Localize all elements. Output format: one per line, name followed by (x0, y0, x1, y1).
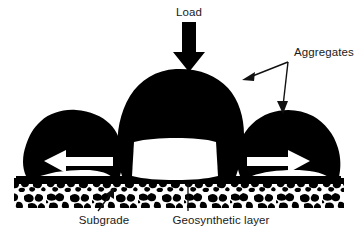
subgrade-label: Subgrade (79, 214, 130, 226)
load-label: Load (176, 6, 202, 18)
aggregates-label: Aggregates (294, 46, 354, 58)
load-arrow (173, 22, 205, 72)
aggregates-leader-lines (242, 62, 288, 114)
diagram-canvas: Load Aggregates Subgrade Geosynthetic la… (0, 0, 358, 244)
center-aggregate-void (132, 138, 218, 180)
geosynthetic-layer-label: Geosynthetic layer (172, 214, 269, 226)
subgrade-texture (14, 183, 344, 208)
geosynthetic-diagram-figure: Load Aggregates Subgrade Geosynthetic la… (0, 0, 358, 244)
subgrade-layer (14, 183, 344, 208)
left-aggregate (23, 110, 122, 177)
